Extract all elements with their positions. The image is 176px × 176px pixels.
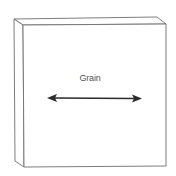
board-front-face (23, 24, 166, 167)
board-diagram (0, 0, 176, 176)
board-left-face (14, 19, 24, 167)
board-block (14, 17, 166, 167)
grain-label: Grain (60, 73, 120, 83)
